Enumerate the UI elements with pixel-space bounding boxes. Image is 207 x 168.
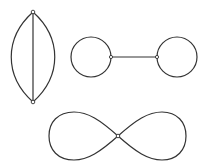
lens-right-arc: [33, 12, 55, 102]
dumbbell-right-loop: [157, 37, 197, 77]
dumbbell-right-vertex: [155, 55, 158, 58]
dumbbell-left-loop: [71, 37, 111, 77]
figure-eight-right-lobe: [118, 112, 186, 160]
lens-left-arc: [11, 12, 33, 102]
figure-eight-left-lobe: [49, 112, 118, 160]
lens-bottom-vertex: [31, 100, 35, 104]
lens-graph: [11, 10, 55, 104]
dumbbell-left-vertex: [109, 55, 112, 58]
figure-eight-graph: [49, 112, 186, 160]
lens-top-vertex: [31, 10, 35, 14]
figure-eight-center-vertex: [116, 134, 120, 138]
diagram-canvas: [0, 0, 207, 168]
dumbbell-graph: [71, 37, 197, 77]
